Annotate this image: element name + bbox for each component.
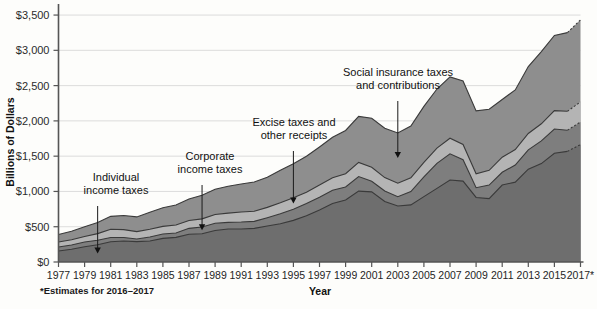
- x-tick-label: 2015: [543, 269, 567, 281]
- footnote: *Estimates for 2016–2017: [40, 285, 154, 296]
- x-tick-label: 2005: [412, 269, 436, 281]
- annotation-label-line2: other receipts: [261, 129, 328, 141]
- x-tick-label: 2009: [464, 269, 488, 281]
- y-tick-label: $2,500: [16, 80, 50, 92]
- x-tick-label: 1987: [177, 269, 201, 281]
- x-tick-label: 2007: [438, 269, 462, 281]
- x-tick-label: 1999: [334, 269, 358, 281]
- chart-figure: $0$500$1,000$1,500$2,000$2,500$3,000$3,5…: [0, 0, 597, 309]
- annotation-label-line1: Corporate: [186, 150, 235, 162]
- x-tick-label: 1993: [256, 269, 280, 281]
- x-tick-label: 2003: [386, 269, 410, 281]
- annotation-label-line1: Excise taxes and: [252, 116, 335, 128]
- y-tick-labels-group: $0$500$1,000$1,500$2,000$2,500$3,000$3,5…: [16, 9, 59, 268]
- x-tick-label: 1995: [282, 269, 306, 281]
- x-tick-label: 2017*: [567, 269, 594, 281]
- annotation-label-line2: income taxes: [84, 184, 149, 196]
- x-axis-title: Year: [309, 285, 331, 297]
- x-tick-label: 1979: [73, 269, 97, 281]
- y-axis-title: Billions of Dollars: [4, 97, 16, 186]
- annotation-label-line2: and contributions: [356, 79, 440, 91]
- x-tick-labels-group: 1977197919811983198519871989199119931995…: [47, 262, 594, 281]
- y-tick-label: $0: [37, 256, 49, 268]
- annotation-label-line1: Individual: [93, 171, 139, 183]
- x-tick-label: 1989: [203, 269, 227, 281]
- annotation-label-line2: income taxes: [178, 163, 243, 175]
- y-tick-label: $1,000: [16, 185, 50, 197]
- y-tick-label: $3,500: [16, 9, 50, 21]
- y-tick-label: $1,500: [16, 150, 50, 162]
- stacked-area-chart: $0$500$1,000$1,500$2,000$2,500$3,000$3,5…: [0, 0, 597, 309]
- x-tick-label: 2013: [517, 269, 541, 281]
- x-tick-label: 2001: [360, 269, 384, 281]
- x-tick-label: 1977: [47, 269, 71, 281]
- x-tick-label: 1991: [230, 269, 254, 281]
- y-tick-label: $3,000: [16, 44, 50, 56]
- x-tick-label: 1981: [99, 269, 123, 281]
- x-tick-label: 1983: [125, 269, 149, 281]
- x-tick-label: 1985: [151, 269, 175, 281]
- y-tick-label: $2,000: [16, 115, 50, 127]
- annotation-label-line1: Social insurance taxes: [343, 66, 454, 78]
- x-tick-label: 1997: [308, 269, 332, 281]
- y-tick-label: $500: [25, 221, 49, 233]
- x-tick-label: 2011: [491, 269, 514, 281]
